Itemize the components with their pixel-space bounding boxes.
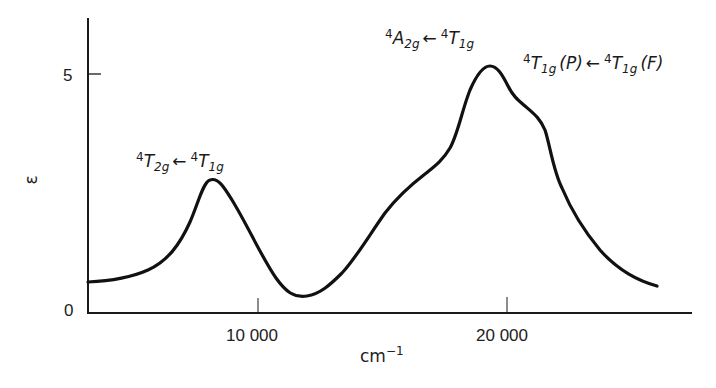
x-axis-unit: cm bbox=[360, 346, 386, 366]
annotation-4T1gP-from-4T1gF: 4T1g(P)←4T1g(F) bbox=[523, 52, 663, 76]
x-axis-unit-exponent: −1 bbox=[386, 344, 404, 358]
x-axis-title: cm−1 bbox=[360, 344, 404, 366]
spectrum-curve bbox=[88, 66, 657, 296]
annotation-4T2g-from-4T1g: 4T2g←4T1g bbox=[136, 150, 224, 174]
y-tick-label-5: 5 bbox=[63, 66, 72, 85]
absorption-spectrum-chart: 5 0 10 000 20 000 cm−1 ε 4T2g←4T1g 4A2g←… bbox=[0, 0, 716, 388]
y-tick-label-0: 0 bbox=[64, 301, 73, 320]
y-axis-title: ε bbox=[21, 175, 41, 184]
x-tick-label-20000: 20 000 bbox=[476, 326, 528, 345]
x-tick-label-10000: 10 000 bbox=[226, 326, 278, 345]
annotation-4A2g-from-4T1g: 4A2g←4T1g bbox=[385, 27, 474, 51]
